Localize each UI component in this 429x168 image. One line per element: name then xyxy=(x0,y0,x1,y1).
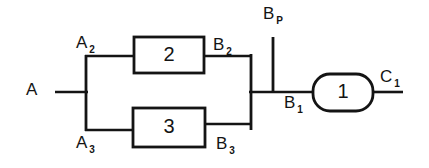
port-c1-subscript: 1 xyxy=(394,78,400,89)
port-c1-base: C xyxy=(380,67,392,86)
port-label-b2: B2 xyxy=(213,36,230,53)
port-a3-base: A xyxy=(76,133,87,152)
port-label-a: A xyxy=(26,81,37,98)
port-label-a3: A3 xyxy=(76,134,93,151)
port-a3-subscript: 3 xyxy=(89,144,95,155)
port-b1-base: B xyxy=(284,93,295,112)
port-label-a2: A2 xyxy=(76,34,93,51)
block-diagram: 2 3 1 A A2 A3 B2 B3 BP B1 C1 xyxy=(0,0,429,168)
port-label-bp: BP xyxy=(263,5,281,22)
port-label-b1: B1 xyxy=(284,94,301,111)
port-b2-subscript: 2 xyxy=(226,46,232,57)
port-bp-subscript: P xyxy=(276,15,283,26)
diagram-canvas: 2 3 1 xyxy=(0,0,429,168)
block-1-label: 1 xyxy=(337,80,348,102)
port-b3-base: B xyxy=(216,134,227,153)
port-a2-subscript: 2 xyxy=(89,44,95,55)
block-3-label: 3 xyxy=(163,115,174,137)
port-b1-subscript: 1 xyxy=(297,104,303,115)
port-a-base: A xyxy=(26,80,37,99)
port-a2-base: A xyxy=(76,33,87,52)
port-b3-subscript: 3 xyxy=(229,145,235,156)
port-bp-base: B xyxy=(263,4,274,23)
block-2-label: 2 xyxy=(163,43,174,65)
port-label-b3: B3 xyxy=(216,135,233,152)
port-b2-base: B xyxy=(213,35,224,54)
port-label-c1: C1 xyxy=(380,68,398,85)
